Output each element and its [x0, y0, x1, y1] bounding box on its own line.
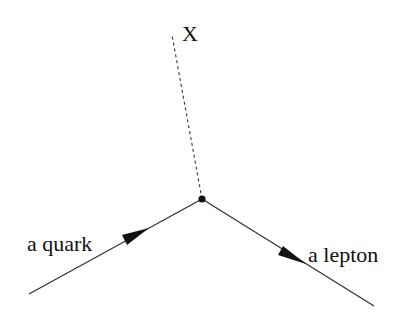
boson-label: X [182, 21, 198, 46]
quark-label: a quark [27, 231, 92, 256]
feynman-diagram: X a quark a lepton [0, 0, 408, 324]
vertex-dot [198, 195, 205, 202]
quark-arrow-icon [122, 228, 149, 245]
lepton-arrow-icon [278, 246, 306, 264]
lepton-label: a lepton [308, 242, 378, 267]
x-boson-line [172, 35, 202, 199]
